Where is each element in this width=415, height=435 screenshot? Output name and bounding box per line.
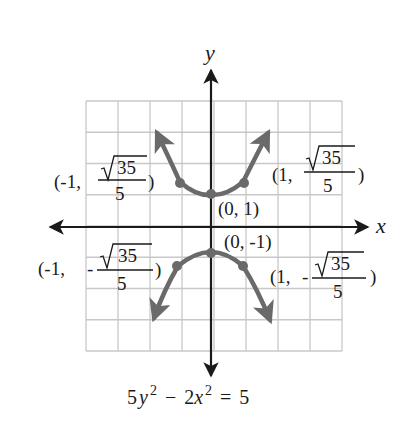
svg-text:5: 5: [323, 175, 333, 196]
svg-text:5: 5: [333, 281, 343, 302]
point-lower-left: [172, 261, 182, 271]
svg-text:): ): [358, 164, 364, 186]
svg-text:(1,: (1,: [270, 266, 291, 288]
label-vertex-top: (0, 1): [218, 198, 259, 220]
x-axis-label: x: [375, 213, 386, 238]
svg-text:35: 35: [118, 245, 137, 266]
svg-text:(1,: (1,: [272, 164, 293, 186]
svg-text:35: 35: [322, 147, 341, 168]
svg-text:-: -: [87, 258, 93, 279]
point-vertex-top: [206, 189, 216, 199]
svg-text:5: 5: [115, 183, 125, 204]
equation-caption: 5y2−2x2=5: [127, 383, 249, 409]
hyperbola-graph: x y (0, 1) (0, -1) (-1, 35 5 ) (1, 35: [0, 0, 415, 435]
svg-text:5: 5: [117, 273, 127, 294]
label-lower-right: (1, - 35 5 ): [270, 252, 376, 302]
svg-text:(-1,: (-1,: [54, 171, 81, 193]
svg-text:35: 35: [117, 157, 136, 178]
point-lower-right: [238, 261, 248, 271]
svg-text:(-1,: (-1,: [38, 258, 65, 280]
point-upper-left: [175, 178, 185, 188]
label-upper-right: (1, 35 5 ): [272, 146, 364, 196]
svg-text:-: -: [302, 266, 308, 287]
label-lower-left: (-1, - 35 5 ): [38, 244, 161, 294]
point-vertex-bottom: [206, 248, 216, 258]
svg-text:): ): [370, 266, 376, 288]
y-axis-label: y: [203, 40, 215, 65]
label-vertex-bottom: (0, -1): [224, 231, 271, 253]
svg-text:): ): [148, 171, 154, 193]
point-upper-right: [239, 178, 249, 188]
svg-text:): ): [155, 259, 161, 281]
svg-text:35: 35: [331, 253, 350, 274]
